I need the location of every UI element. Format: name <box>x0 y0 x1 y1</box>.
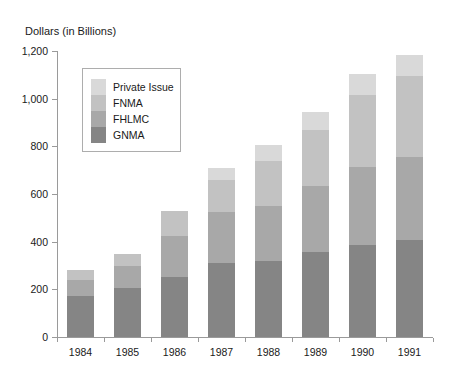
bar-segment-gnma-1987 <box>208 263 235 337</box>
x-axis-year-label: 1987 <box>198 346 245 358</box>
legend-label-column: Private IssueFNMAFHLMCGNMA <box>113 79 174 143</box>
x-axis-year-label: 1989 <box>292 346 339 358</box>
x-axis-tick <box>386 338 387 342</box>
bar-segment-private-issue-1987 <box>208 168 235 180</box>
legend-swatch-fnma <box>91 95 106 111</box>
x-axis-tick <box>57 338 58 342</box>
bar-segment-private-issue-1988 <box>255 145 282 160</box>
bar-segment-fnma-1985 <box>114 254 141 266</box>
bar-group-1987 <box>208 51 235 337</box>
y-axis-tick <box>52 51 57 52</box>
bar-segment-private-issue-1991 <box>396 55 423 76</box>
bar-segment-fhlmc-1987 <box>208 212 235 263</box>
legend-swatch-column <box>91 79 106 143</box>
chart-figure: Dollars (in Billions) 02004006008001,000… <box>0 0 458 385</box>
y-axis-line <box>57 51 58 338</box>
bar-segment-gnma-1989 <box>302 252 329 337</box>
bar-segment-fnma-1989 <box>302 130 329 186</box>
y-axis-tick <box>52 99 57 100</box>
y-axis-tick <box>52 242 57 243</box>
x-axis-year-label: 1991 <box>386 346 433 358</box>
bar-segment-gnma-1985 <box>114 288 141 337</box>
chart-title: Dollars (in Billions) <box>25 25 116 37</box>
y-tick-label: 200 <box>8 283 48 295</box>
y-tick-label: 800 <box>8 140 48 152</box>
legend-swatch-fhlmc <box>91 111 106 127</box>
x-axis-year-label: 1985 <box>104 346 151 358</box>
legend-label-private-issue: Private Issue <box>113 79 174 95</box>
bar-segment-fhlmc-1991 <box>396 157 423 240</box>
bar-segment-fnma-1990 <box>349 95 376 167</box>
x-axis-year-label: 1984 <box>57 346 104 358</box>
bar-segment-gnma-1990 <box>349 245 376 337</box>
bar-segment-gnma-1988 <box>255 261 282 337</box>
y-tick-label: 1,200 <box>8 45 48 57</box>
bar-segment-fnma-1987 <box>208 180 235 212</box>
bar-segment-private-issue-1990 <box>349 74 376 95</box>
legend-label-fhlmc: FHLMC <box>113 111 174 127</box>
bar-segment-fnma-1991 <box>396 76 423 157</box>
x-axis-tick <box>433 338 434 342</box>
bar-group-1989 <box>302 51 329 337</box>
x-axis-tick <box>151 338 152 342</box>
bar-segment-fnma-1984 <box>67 270 94 280</box>
x-axis-tick <box>339 338 340 342</box>
y-tick-label: 400 <box>8 236 48 248</box>
x-axis-tick <box>104 338 105 342</box>
y-tick-label: 600 <box>8 188 48 200</box>
bar-segment-fnma-1988 <box>255 161 282 206</box>
x-axis-tick <box>292 338 293 342</box>
legend-swatch-private-issue <box>91 79 106 95</box>
bar-segment-fhlmc-1985 <box>114 266 141 289</box>
x-axis-year-label: 1990 <box>339 346 386 358</box>
x-axis-tick <box>198 338 199 342</box>
y-axis-tick <box>52 289 57 290</box>
bar-segment-fhlmc-1986 <box>161 236 188 278</box>
bar-segment-fhlmc-1989 <box>302 186 329 253</box>
bar-segment-gnma-1984 <box>67 296 94 337</box>
bar-segment-fhlmc-1988 <box>255 206 282 261</box>
legend-box: Private IssueFNMAFHLMCGNMA <box>82 68 181 152</box>
bar-segment-fhlmc-1984 <box>67 280 94 297</box>
y-tick-label: 1,000 <box>8 93 48 105</box>
bar-segment-fnma-1986 <box>161 211 188 236</box>
x-axis-year-label: 1986 <box>151 346 198 358</box>
x-axis-tick <box>245 338 246 342</box>
bar-segment-gnma-1986 <box>161 277 188 337</box>
y-tick-label: 0 <box>8 331 48 343</box>
y-axis-tick <box>52 146 57 147</box>
bar-group-1990 <box>349 51 376 337</box>
bar-segment-fhlmc-1990 <box>349 167 376 246</box>
legend-swatch-gnma <box>91 127 106 143</box>
x-axis-year-label: 1988 <box>245 346 292 358</box>
y-axis-tick <box>52 194 57 195</box>
bar-group-1988 <box>255 51 282 337</box>
legend-label-gnma: GNMA <box>113 127 174 143</box>
bar-segment-gnma-1991 <box>396 240 423 337</box>
bar-group-1991 <box>396 51 423 337</box>
bar-segment-private-issue-1989 <box>302 112 329 130</box>
legend-label-fnma: FNMA <box>113 95 174 111</box>
